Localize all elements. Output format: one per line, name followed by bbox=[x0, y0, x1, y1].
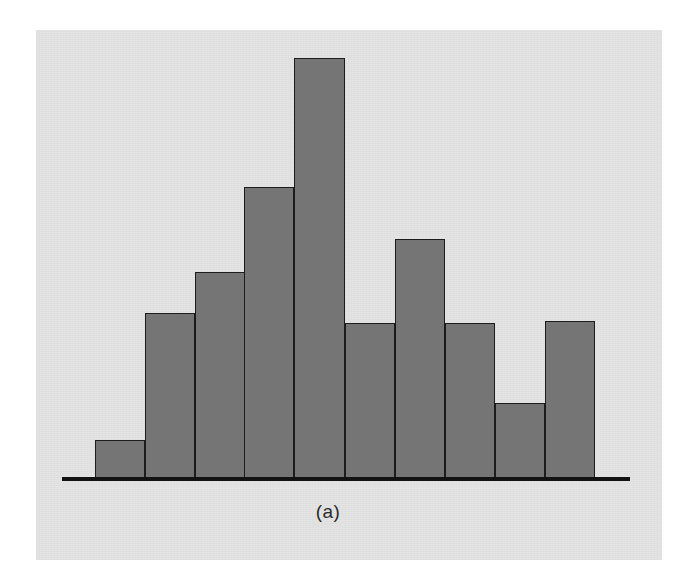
histogram-bar bbox=[95, 440, 145, 480]
histogram-bar bbox=[195, 272, 245, 480]
histogram-bar bbox=[345, 323, 395, 480]
subfigure-caption: (a) bbox=[303, 502, 353, 521]
histogram-bar bbox=[395, 239, 445, 480]
histogram-bar bbox=[545, 321, 595, 480]
histogram-bar bbox=[145, 313, 195, 480]
figure-panel: (a) bbox=[36, 30, 662, 560]
histogram-plot-area: (a) bbox=[36, 30, 662, 560]
x-axis-baseline bbox=[62, 477, 630, 481]
histogram-bar bbox=[445, 323, 495, 480]
histogram-bar bbox=[495, 403, 545, 480]
figure-root: (a) bbox=[0, 0, 696, 583]
histogram-bar bbox=[244, 187, 294, 480]
histogram-bar bbox=[294, 58, 345, 480]
